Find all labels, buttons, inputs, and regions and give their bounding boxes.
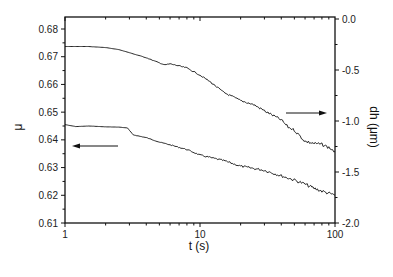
right-tick-label: -0.5 [342, 65, 360, 76]
x-tick-label: 1 [62, 229, 68, 240]
axis-arrows [72, 111, 327, 149]
left-tick-label: 0.68 [39, 24, 59, 35]
right-tick-label: -1.5 [342, 167, 360, 178]
right-axis-title: dh (μm) [367, 106, 381, 148]
left-arrow-icon [72, 144, 80, 149]
left-tick-label: 0.65 [39, 107, 59, 118]
x-tick-label: 100 [327, 229, 344, 240]
left-tick-label: 0.62 [39, 190, 59, 201]
right-axis-tick-labels: -2.0-1.5-1.0-0.50.0 [342, 14, 360, 229]
left-tick-label: 0.67 [39, 51, 59, 62]
data-series [65, 47, 335, 196]
chart: 0.610.620.630.640.650.660.670.68 -2.0-1.… [0, 0, 393, 277]
left-tick-label: 0.66 [39, 79, 59, 90]
right-arrow-icon [319, 111, 327, 116]
left-tick-label: 0.61 [39, 218, 59, 229]
left-axis-tick-labels: 0.610.620.630.640.650.660.670.68 [39, 24, 59, 229]
x-axis-title: t (s) [189, 239, 210, 253]
left-tick-label: 0.64 [39, 134, 59, 145]
left-tick-label: 0.63 [39, 162, 59, 173]
axis-ticks [61, 17, 339, 227]
series-line [65, 47, 335, 152]
series-line [65, 125, 335, 196]
left-axis-title: μ [11, 123, 25, 130]
right-tick-label: -2.0 [342, 218, 360, 229]
right-tick-label: 0.0 [342, 14, 356, 25]
right-tick-label: -1.0 [342, 116, 360, 127]
